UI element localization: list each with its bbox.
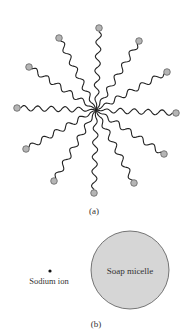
head-group (56, 35, 63, 42)
head-group (136, 38, 143, 45)
tail (96, 44, 138, 110)
tail (61, 41, 96, 110)
head-group (173, 110, 180, 117)
head-group (161, 151, 168, 158)
head-group (26, 64, 33, 71)
panel-a-label: (a) (89, 206, 99, 216)
tail (94, 32, 101, 111)
head-group (164, 69, 171, 76)
tail (55, 110, 96, 178)
micelle-diagram: (a) Sodium ion Soap micelle (b) (0, 0, 187, 332)
head-group (14, 105, 21, 112)
soap-micelle-label: Soap micelle (107, 266, 154, 276)
head-group (23, 146, 30, 153)
head-group (51, 178, 58, 185)
head-group (91, 190, 98, 197)
tail (32, 68, 96, 110)
tail (96, 110, 161, 153)
panel-b-label: (b) (91, 319, 102, 329)
tail (92, 110, 98, 190)
sodium-ion-dot (48, 269, 51, 272)
tail (96, 74, 164, 110)
tail (21, 106, 97, 112)
hydrocarbon-tails (21, 32, 173, 190)
head-group (96, 25, 103, 32)
tail (29, 110, 96, 147)
sodium-ion-label: Sodium ion (29, 276, 69, 286)
tail (96, 108, 173, 115)
head-group (131, 180, 138, 187)
tail (96, 110, 132, 180)
